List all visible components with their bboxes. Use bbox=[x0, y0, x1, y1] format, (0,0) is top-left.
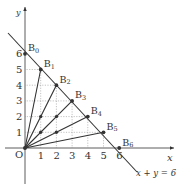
point-B5 bbox=[102, 130, 106, 134]
label-B6: B6 bbox=[122, 137, 133, 150]
label-B4: B4 bbox=[91, 105, 102, 118]
label-B3: B3 bbox=[75, 89, 86, 102]
lattice-point bbox=[39, 115, 42, 118]
x-tick-label: 2 bbox=[53, 150, 59, 161]
y-tick-label: 2 bbox=[16, 111, 22, 122]
y-tick-label: 5 bbox=[16, 64, 22, 75]
segment-O-B5 bbox=[25, 132, 104, 148]
y-axis-label: y bbox=[15, 8, 21, 17]
x-axis-label: x bbox=[167, 152, 173, 163]
point-B3 bbox=[70, 99, 74, 103]
coordinate-diagram: B0B1B2B3B4B5B6123456123456 O x y x + y =… bbox=[0, 0, 183, 187]
label-B5: B5 bbox=[107, 121, 118, 134]
y-tick-label: 3 bbox=[16, 95, 22, 106]
x-tick-label: 1 bbox=[38, 150, 44, 161]
label-B0: B0 bbox=[28, 42, 39, 55]
x-tick-label: 6 bbox=[116, 150, 122, 161]
line-equation-label: x + y = 6 bbox=[136, 168, 177, 178]
point-B2 bbox=[55, 83, 59, 87]
lattice-point bbox=[55, 115, 58, 118]
lattice-point bbox=[39, 131, 42, 134]
point-B1 bbox=[39, 68, 43, 72]
label-B1: B1 bbox=[44, 58, 55, 71]
y-tick-label: 4 bbox=[16, 80, 22, 91]
y-tick-label: 6 bbox=[16, 48, 22, 59]
segment-O-B3 bbox=[25, 101, 72, 148]
origin-label: O bbox=[15, 149, 23, 160]
point-B4 bbox=[86, 115, 90, 119]
x-tick-label: 5 bbox=[101, 150, 107, 161]
point-B0 bbox=[23, 52, 27, 56]
label-B2: B2 bbox=[59, 74, 70, 87]
segment-O-B1 bbox=[25, 70, 41, 149]
origin-point bbox=[23, 146, 27, 150]
x-tick-label: 3 bbox=[69, 150, 75, 161]
lattice-point bbox=[55, 131, 58, 134]
y-tick-label: 1 bbox=[16, 127, 22, 138]
x-tick-label: 4 bbox=[85, 150, 91, 161]
